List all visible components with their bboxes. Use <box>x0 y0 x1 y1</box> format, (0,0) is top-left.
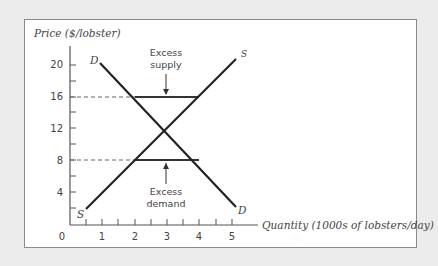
supply-top-label: S <box>241 49 247 59</box>
excess-supply-label-line1: Excess <box>150 47 182 58</box>
y-tick-label-20: 20 <box>50 59 63 70</box>
y-tick-label-4: 4 <box>57 187 63 198</box>
x-tick-label-5: 5 <box>229 231 235 242</box>
origin-label: 0 <box>59 231 65 242</box>
excess-demand-arrowhead <box>163 163 169 169</box>
x-tick-label-2: 2 <box>132 231 138 242</box>
y-axis-label: Price ($/lobster) <box>33 27 121 39</box>
y-tick-label-8: 8 <box>57 155 63 166</box>
excess-supply-arrowhead <box>163 89 169 95</box>
excess-supply-label-line2: supply <box>150 59 182 70</box>
y-tick-label-12: 12 <box>50 123 63 134</box>
excess-demand-label-line1: Excess <box>150 186 182 197</box>
x-tick-label-1: 1 <box>99 231 105 242</box>
excess-demand-label-line2: demand <box>146 198 185 209</box>
x-tick-label-4: 4 <box>196 231 202 242</box>
y-ticks <box>70 65 76 208</box>
x-ticks <box>86 219 232 225</box>
supply-demand-chart: Price ($/lobster) Quantity (1000s of lob… <box>0 0 438 266</box>
demand-top-label: D <box>89 54 99 66</box>
x-tick-label-3: 3 <box>164 231 170 242</box>
x-axis-label: Quantity (1000s of lobsters/day) <box>262 219 434 232</box>
y-tick-label-16: 16 <box>50 91 63 102</box>
supply-bottom-label: S <box>77 208 84 220</box>
demand-bottom-label: D <box>237 204 247 216</box>
